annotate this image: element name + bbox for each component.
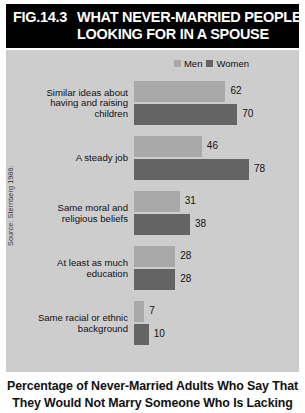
legend-item-men: Men — [174, 59, 202, 69]
bar-plot: Similar ideas about having and raising c… — [6, 76, 299, 351]
bar-group: A steady job 46 78 — [6, 131, 299, 186]
bar-men — [134, 81, 225, 102]
bar-row-men: 46 — [134, 136, 299, 157]
bar-pair: 62 70 — [134, 81, 299, 127]
category-label-line: Same racial or ethnic — [6, 313, 128, 324]
bar-value-women: 10 — [149, 329, 165, 339]
bar-value-women: 28 — [175, 274, 191, 284]
chart-legend: Men Women — [174, 59, 249, 69]
legend-label-women: Women — [216, 59, 249, 69]
bar-group: At least as much education 28 28 — [6, 241, 299, 296]
bar-value-men: 62 — [225, 86, 241, 96]
bar-value-men: 28 — [175, 251, 191, 261]
figure-title-line-1: WHAT NEVER-MARRIED PEOPLE ARE — [77, 9, 305, 26]
figure-number: FIG.14.3 — [6, 4, 67, 25]
bar-row-men: 62 — [134, 81, 299, 102]
bar-group: Similar ideas about having and raising c… — [6, 76, 299, 131]
bar-value-men: 7 — [144, 306, 155, 316]
source-note: Source: Sternberg 1986. — [6, 136, 15, 246]
legend-item-women: Women — [206, 59, 249, 69]
bar-row-men: 28 — [134, 246, 299, 267]
bar-men — [134, 246, 175, 267]
bar-row-women: 70 — [134, 104, 299, 125]
category-label: At least as much education — [6, 258, 134, 279]
category-label: Similar ideas about having and raising c… — [6, 88, 134, 120]
bar-pair: 28 28 — [134, 246, 299, 292]
bar-row-men: 7 — [134, 301, 299, 322]
bar-row-women: 78 — [134, 159, 299, 180]
bar-women — [134, 269, 175, 290]
chart-panel: Men Women Similar ideas about having and… — [6, 50, 299, 372]
bar-women — [134, 214, 190, 235]
category-label: Same racial or ethnic background — [6, 313, 134, 334]
figure-title: WHAT NEVER-MARRIED PEOPLE ARE LOOKING FO… — [67, 4, 305, 42]
category-label: Same moral and religious beliefs — [6, 203, 134, 224]
legend-label-men: Men — [184, 59, 202, 69]
figure-header: FIG.14.3 WHAT NEVER-MARRIED PEOPLE ARE L… — [6, 4, 299, 48]
category-label-line: A steady job — [6, 153, 128, 164]
bar-men — [134, 191, 180, 212]
category-label-line: Same moral and — [6, 203, 128, 214]
bar-row-women: 38 — [134, 214, 299, 235]
bar-men — [134, 136, 202, 157]
figure-container: FIG.14.3 WHAT NEVER-MARRIED PEOPLE ARE L… — [0, 0, 305, 413]
bar-group: Same moral and religious beliefs 31 38 — [6, 186, 299, 241]
legend-swatch-men-icon — [174, 60, 181, 67]
bar-men — [134, 301, 144, 322]
category-label-line: background — [6, 324, 128, 335]
category-label-line: religious beliefs — [6, 214, 128, 225]
bar-row-women: 28 — [134, 269, 299, 290]
bar-pair: 31 38 — [134, 191, 299, 237]
bar-women — [134, 159, 249, 180]
legend-swatch-women-icon — [206, 60, 213, 67]
bar-pair: 46 78 — [134, 136, 299, 182]
figure-caption-line-2: They Would Not Marry Someone Who Is Lack… — [6, 395, 299, 412]
bar-value-women: 38 — [190, 219, 206, 229]
figure-caption-line-1: Percentage of Never-Married Adults Who S… — [6, 378, 299, 395]
bar-row-men: 31 — [134, 191, 299, 212]
figure-title-line-2: LOOKING FOR IN A SPOUSE — [77, 26, 305, 43]
category-label-line: education — [6, 269, 128, 280]
category-label-line: children — [6, 109, 128, 120]
figure-caption: Percentage of Never-Married Adults Who S… — [6, 378, 299, 412]
bar-women — [134, 324, 149, 345]
bar-value-women: 78 — [249, 164, 265, 174]
bar-value-men: 31 — [180, 196, 196, 206]
bar-value-women: 70 — [237, 109, 253, 119]
bar-group: Same racial or ethnic background 7 10 — [6, 296, 299, 351]
bar-row-women: 10 — [134, 324, 299, 345]
bar-women — [134, 104, 237, 125]
bar-value-men: 46 — [202, 141, 218, 151]
bar-pair: 7 10 — [134, 301, 299, 347]
category-label: A steady job — [6, 153, 134, 164]
category-label-line: At least as much — [6, 258, 128, 269]
